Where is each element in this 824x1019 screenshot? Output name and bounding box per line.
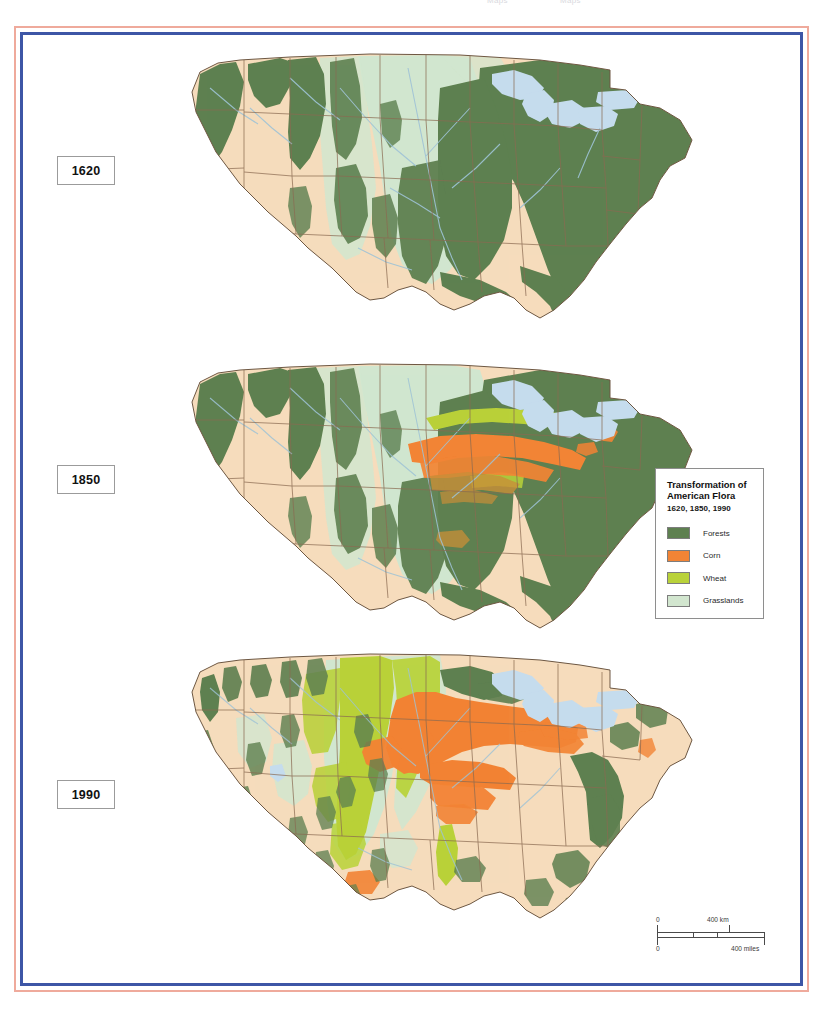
legend-label-corn: Corn [703,551,720,560]
scale-tick-mid-2 [717,932,718,938]
year-label-1990: 1990 [57,780,115,809]
scale-bar: 0 400 km 0 400 miles [657,916,771,958]
map-panel-1620 [140,48,700,353]
map-legend: Transformation of American Flora 1620, 1… [655,468,764,619]
legend-label-wheat: Wheat [703,574,726,583]
year-label-text: 1990 [72,788,101,802]
running-head-right: Maps [560,0,581,5]
legend-title-line1: Transformation of [667,479,763,490]
scale-mi-label: 400 miles [731,945,759,952]
legend-subtitle: 1620, 1850, 1990 [667,504,763,513]
running-head: Maps Maps [0,0,824,9]
legend-swatch-forests [667,527,690,539]
scale-mi-zero: 0 [656,945,660,952]
legend-item-corn: Corn [667,544,763,567]
legend-label-forests: Forests [703,529,730,538]
year-label-1620: 1620 [57,156,115,185]
scale-bar-line [657,932,765,938]
legend-items: Forests Corn Wheat Grasslands [667,522,763,612]
scale-km-label: 400 km [707,916,729,923]
year-label-text: 1850 [72,473,101,487]
scale-tick-mid-1 [693,932,694,938]
legend-item-grasslands: Grasslands [667,589,763,612]
map-panel-1990 [140,648,700,953]
legend-item-wheat: Wheat [667,567,763,590]
map-panel-1850 [140,358,700,663]
legend-swatch-grasslands [667,595,690,607]
year-label-1850: 1850 [57,465,115,494]
legend-swatch-wheat [667,572,690,584]
legend-title: Transformation of American Flora [667,479,763,502]
scale-tick-mi-end [764,937,765,945]
scale-tick-mi-start [657,937,658,945]
legend-swatch-corn [667,550,690,562]
legend-label-grasslands: Grasslands [703,596,743,605]
year-label-text: 1620 [72,164,101,178]
legend-item-forests: Forests [667,522,763,545]
running-head-left: Maps [487,0,508,5]
legend-title-line2: American Flora [667,490,763,501]
scale-km-zero: 0 [656,916,660,923]
